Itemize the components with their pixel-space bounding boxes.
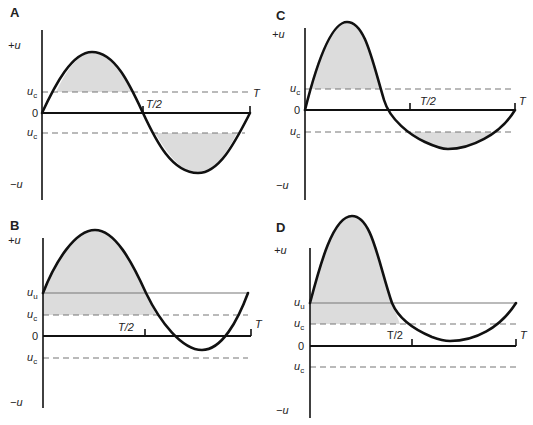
waveform-figure: A +u uc 0 uc −u T/2 T C +u uc 0: [0, 0, 533, 425]
label-uc-upper: uc: [294, 317, 304, 332]
label-uc-upper: uc: [290, 82, 300, 97]
panel-c: C +u uc 0 uc −u T/2 T: [272, 8, 527, 200]
label-period: T: [253, 87, 261, 99]
label-minus-u: −u: [276, 179, 289, 191]
shaded-area-negative: [155, 133, 237, 173]
label-uc-upper: uc: [27, 308, 37, 323]
label-uu: uu: [294, 296, 305, 311]
label-plus-u: +u: [8, 39, 21, 51]
label-minus-u: −u: [10, 178, 23, 190]
label-plus-u: +u: [274, 244, 287, 256]
label-period: T: [520, 329, 528, 341]
label-half-period: T/2: [420, 95, 436, 107]
label-minus-u: −u: [10, 396, 23, 408]
panel-b: B +u uu uc 0 uc −u T/2 T: [8, 218, 263, 408]
panel-letter-b: B: [10, 218, 19, 233]
label-plus-u: +u: [272, 28, 285, 40]
panel-letter-a: A: [10, 5, 20, 20]
label-uc-upper: uc: [27, 85, 37, 100]
shaded-area-positive: [310, 216, 400, 324]
label-uc-lower: uc: [27, 351, 37, 366]
label-half-period: T/2: [118, 321, 134, 333]
panel-d: D +u uu uc 0 uc −u T/2 T: [274, 216, 528, 418]
label-uc-lower: uc: [294, 360, 304, 375]
shaded-area-positive: [43, 230, 156, 315]
panel-letter-d: D: [276, 220, 285, 235]
label-period: T: [519, 95, 527, 107]
label-minus-u: −u: [276, 404, 289, 416]
label-zero: 0: [32, 330, 38, 342]
label-uc-lower: uc: [27, 126, 37, 141]
panel-a: A +u uc 0 uc −u T/2 T: [8, 5, 261, 200]
label-zero: 0: [32, 107, 38, 119]
label-zero: 0: [298, 340, 304, 352]
label-half-period: T/2: [146, 98, 162, 110]
panel-letter-c: C: [276, 8, 286, 23]
label-uc-lower: uc: [290, 125, 300, 140]
label-period: T: [255, 318, 263, 330]
label-half-period: T/2: [387, 329, 403, 341]
label-uu: uu: [27, 286, 38, 301]
label-zero: 0: [294, 104, 300, 116]
label-plus-u: +u: [8, 234, 21, 246]
